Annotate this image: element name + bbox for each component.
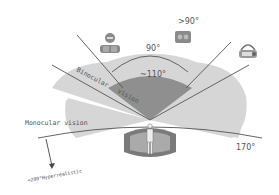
hmd-helmet-icon (239, 45, 257, 58)
field-of-view-diagram: >90° 90° ~110° 170° Binocular vision Mon… (0, 0, 279, 195)
hyper-arrow-line (46, 139, 52, 166)
label-gt90: >90° (178, 17, 199, 26)
cardboard-viewer-icon (175, 31, 191, 43)
label-110: ~110° (140, 70, 166, 79)
label-90: 90° (146, 44, 160, 53)
label-hyperrealistic: <200°Hyperrealistic (27, 169, 82, 183)
label-monocular: Monocular vision (25, 119, 88, 127)
vr-headset-icon (100, 33, 120, 53)
arrow-head-icon (49, 163, 55, 169)
label-170: 170° (236, 143, 255, 152)
